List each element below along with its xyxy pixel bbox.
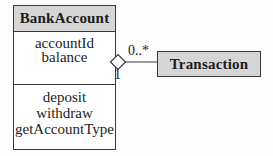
class-bankaccount-name: BankAccount (14, 6, 115, 32)
method-getaccounttype: getAccountType (14, 121, 115, 137)
multiplicity-many-label: 0..* (128, 44, 149, 58)
method-withdraw: withdraw (14, 105, 115, 121)
class-transaction-name: Transaction (158, 52, 260, 76)
class-bankaccount[interactable]: BankAccount accountId balance deposit wi… (13, 5, 116, 150)
attribute-balance: balance (14, 50, 115, 64)
uml-class-diagram: BankAccount accountId balance deposit wi… (0, 0, 273, 156)
class-bankaccount-methods: deposit withdraw getAccountType (14, 85, 115, 149)
method-deposit: deposit (14, 89, 115, 105)
class-bankaccount-attributes: accountId balance (14, 32, 115, 85)
class-transaction[interactable]: Transaction (157, 51, 261, 77)
attribute-accountid: accountId (14, 36, 115, 50)
multiplicity-one-label: 1 (114, 68, 121, 82)
